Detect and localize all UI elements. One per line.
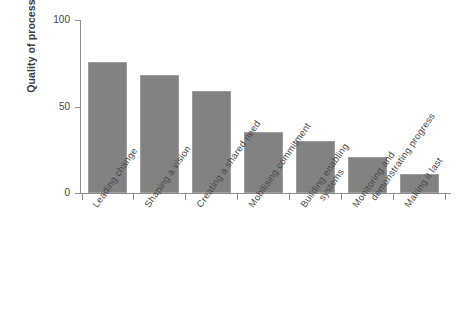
x-tick-mark bbox=[445, 194, 446, 200]
y-axis-line bbox=[80, 20, 81, 194]
y-tick-label: 0 bbox=[30, 188, 70, 198]
y-tick-label: 50 bbox=[30, 102, 70, 112]
y-tick-mark bbox=[75, 193, 80, 194]
bar-chart: Quality of process 050100 Leading change… bbox=[0, 0, 457, 325]
x-tick-mark bbox=[133, 194, 134, 200]
y-tick-label: 100 bbox=[30, 15, 70, 25]
x-tick-mark bbox=[393, 194, 394, 200]
x-tick-mark bbox=[185, 194, 186, 200]
x-tick-mark bbox=[341, 194, 342, 200]
x-tick-mark bbox=[289, 194, 290, 200]
y-tick-mark bbox=[75, 107, 80, 108]
y-tick-mark bbox=[75, 20, 80, 21]
x-tick-mark bbox=[82, 194, 83, 200]
x-tick-mark bbox=[237, 194, 238, 200]
